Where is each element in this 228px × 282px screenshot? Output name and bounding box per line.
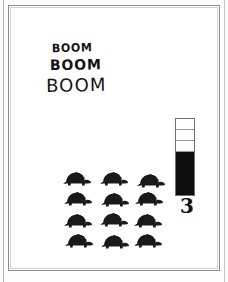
gauge-segment-empty (176, 130, 194, 141)
turtle-icon (97, 189, 132, 210)
segmented-level-gauge (175, 118, 195, 196)
turtle-icon (97, 168, 132, 189)
boom-text-line-3: BOOM (46, 76, 107, 95)
gauge-value-label: 3 (176, 196, 198, 216)
boom-text-line-1: BOOM (52, 42, 93, 55)
gauge-segment-empty (176, 119, 194, 130)
turtle-icon (62, 189, 97, 210)
turtle-grid (62, 168, 166, 252)
turtle-icon (62, 210, 97, 231)
turtle-icon (97, 231, 132, 252)
gauge-fill (176, 152, 194, 195)
turtle-icon (132, 231, 167, 252)
turtle-icon (132, 168, 167, 189)
turtle-icon (97, 210, 132, 231)
picture-book-page: BOOM BOOM BOOM 3 (0, 0, 228, 282)
turtle-icon (62, 168, 97, 189)
turtle-icon (62, 231, 97, 252)
turtle-icon (132, 189, 167, 210)
scan-edge-right (224, 0, 225, 282)
turtle-icon (132, 210, 167, 231)
gauge-segment-empty (176, 141, 194, 152)
boom-text-line-2: BOOM (50, 57, 102, 72)
scan-edge-left (3, 0, 4, 282)
